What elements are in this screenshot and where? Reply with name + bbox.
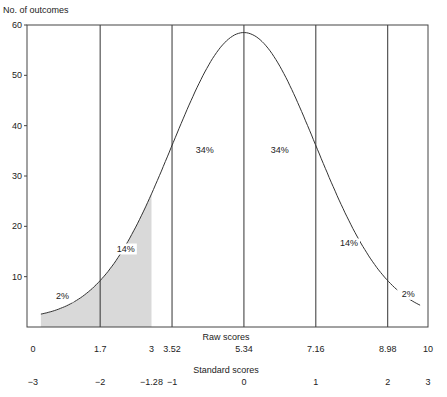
standard-score-label: 0 (241, 377, 246, 387)
standard-score-label: −3 (28, 377, 38, 387)
percentage-label: 34% (196, 145, 214, 155)
shaded-area (41, 194, 152, 327)
y-tick-label: 10 (12, 272, 22, 282)
standard-score-label: −1.28 (140, 377, 163, 387)
raw-score-label: 8.98 (379, 344, 397, 354)
raw-score-label: 3.52 (163, 344, 181, 354)
standard-score-labels: −3−2−1.28−10123 (28, 377, 431, 387)
y-tick-label: 50 (12, 70, 22, 80)
y-tick-label: 40 (12, 121, 22, 131)
percentage-label: 14% (340, 238, 358, 248)
y-axis-ticks: 102030405060 (12, 20, 27, 282)
raw-score-label: 1.7 (94, 344, 107, 354)
standard-score-label: −1 (167, 377, 177, 387)
percentage-label: 2% (56, 291, 69, 301)
shaded-region (41, 194, 152, 327)
raw-score-label: 3 (149, 344, 154, 354)
standard-score-label: 2 (385, 377, 390, 387)
raw-score-label: 10 (423, 344, 433, 354)
raw-score-labels: 01.733.525.347.168.9810 (30, 344, 433, 354)
percentage-label: 14% (117, 244, 135, 254)
standard-score-label: 3 (425, 377, 430, 387)
y-tick-label: 30 (12, 171, 22, 181)
raw-score-label: 0 (30, 344, 35, 354)
y-axis-title: No. of outcomes (3, 5, 69, 15)
y-tick-label: 60 (12, 20, 22, 30)
raw-score-label: 5.34 (235, 344, 253, 354)
percentage-label: 34% (271, 145, 289, 155)
y-tick-label: 20 (12, 221, 22, 231)
percentage-label: 2% (402, 289, 415, 299)
raw-scores-title: Raw scores (202, 332, 250, 342)
standard-scores-title: Standard scores (193, 365, 259, 375)
raw-score-label: 7.16 (307, 344, 325, 354)
standard-score-label: 1 (313, 377, 318, 387)
standard-score-label: −2 (95, 377, 105, 387)
normal-curve (41, 33, 420, 315)
normal-distribution-chart: 102030405060 2%14%34%34%14%2% No. of out… (0, 0, 447, 397)
plot-frame (27, 25, 428, 327)
